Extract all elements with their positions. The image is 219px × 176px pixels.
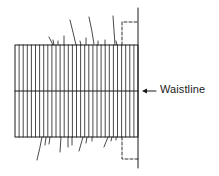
- bottom-threads: [37, 137, 116, 160]
- dashed-tab-top: [122, 22, 138, 45]
- arrow-left-icon: [142, 89, 156, 94]
- waistline-label: Waistline: [160, 83, 205, 95]
- dashed-tab-bottom: [122, 137, 138, 159]
- top-threads: [49, 16, 117, 45]
